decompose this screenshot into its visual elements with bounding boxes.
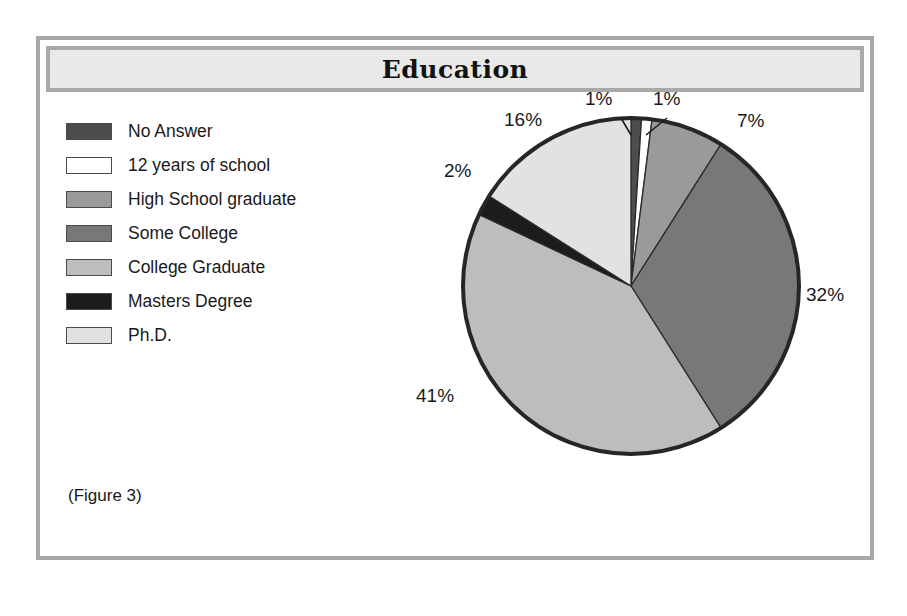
page-title: Education <box>382 55 529 84</box>
legend-label-college-graduate: College Graduate <box>128 257 265 278</box>
legend-swatch-masters-degree <box>66 293 112 310</box>
pie-label-college-graduate: 41% <box>416 385 454 407</box>
pie-chart-svg <box>356 98 870 556</box>
legend-label-high-school-graduate: High School graduate <box>128 189 296 210</box>
chart-title-bar: Education <box>46 46 864 92</box>
legend-item-college-graduate: College Graduate <box>66 250 366 284</box>
legend-swatch-some-college <box>66 225 112 242</box>
legend-item-12-years-of-school: 12 years of school <box>66 148 366 182</box>
pie-label-high-school-graduate: 7% <box>737 110 764 132</box>
pie-label-phd: 16% <box>504 109 542 131</box>
legend-item-high-school-graduate: High School graduate <box>66 182 366 216</box>
pie-label-no-answer: 1% <box>585 88 612 110</box>
legend-swatch-12-years-of-school <box>66 157 112 174</box>
legend-swatch-phd <box>66 327 112 344</box>
pie-slices <box>463 118 799 454</box>
legend-swatch-high-school-graduate <box>66 191 112 208</box>
legend-item-phd: Ph.D. <box>66 318 366 352</box>
chart-body: No Answer 12 years of school High School… <box>40 98 870 556</box>
legend-label-no-answer: No Answer <box>128 121 213 142</box>
chart-legend: No Answer 12 years of school High School… <box>66 114 366 352</box>
legend-item-masters-degree: Masters Degree <box>66 284 366 318</box>
pie-label-masters-degree: 2% <box>444 160 471 182</box>
legend-swatch-college-graduate <box>66 259 112 276</box>
pie-label-12-years-of-school: 1% <box>653 88 680 110</box>
legend-label-some-college: Some College <box>128 223 238 244</box>
legend-swatch-no-answer <box>66 123 112 140</box>
legend-label-masters-degree: Masters Degree <box>128 291 253 312</box>
pie-label-some-college: 32% <box>806 284 844 306</box>
legend-item-some-college: Some College <box>66 216 366 250</box>
figure-caption: (Figure 3) <box>68 486 142 506</box>
legend-item-no-answer: No Answer <box>66 114 366 148</box>
legend-label-phd: Ph.D. <box>128 325 172 346</box>
figure-frame: Education No Answer 12 years of school H… <box>36 36 874 560</box>
legend-label-12-years-of-school: 12 years of school <box>128 155 270 176</box>
pie-chart: 1% 1% 7% 32% 41% 2% 16% <box>356 98 870 556</box>
